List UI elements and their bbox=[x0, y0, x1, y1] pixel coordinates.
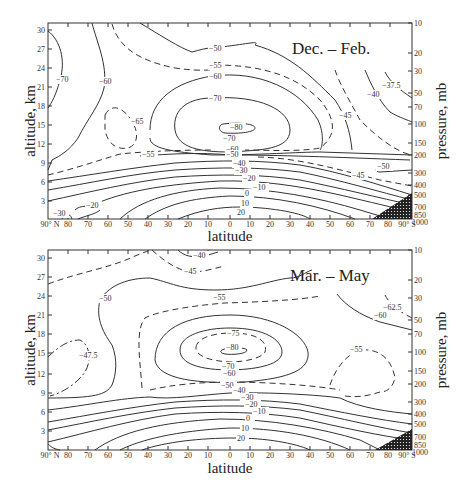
panel-mar-may: −40 −45 −50 −55 −47.5 −75 −80 −70 −60 −5… bbox=[22, 246, 449, 476]
svg-text:500: 500 bbox=[414, 420, 426, 429]
altitude-tick-labels: 30 27 24 21 18 15 12 9 6 3 bbox=[37, 254, 45, 436]
svg-text:15: 15 bbox=[37, 349, 45, 358]
svg-text:100: 100 bbox=[414, 120, 426, 129]
y-axis-title-left: altitude, km bbox=[22, 314, 38, 386]
svg-text:−47.5: −47.5 bbox=[79, 351, 98, 360]
svg-text:−70: −70 bbox=[56, 75, 69, 84]
svg-text:−55: −55 bbox=[209, 61, 222, 70]
svg-text:70: 70 bbox=[366, 451, 374, 460]
svg-text:20: 20 bbox=[184, 451, 192, 460]
x-axis-title: latitude bbox=[208, 460, 253, 476]
svg-text:50: 50 bbox=[326, 451, 334, 460]
svg-text:20: 20 bbox=[237, 208, 245, 217]
svg-text:−50: −50 bbox=[209, 44, 222, 53]
svg-text:24: 24 bbox=[37, 292, 45, 301]
svg-text:10: 10 bbox=[241, 424, 249, 433]
svg-text:10: 10 bbox=[246, 451, 254, 460]
pressure-tick-labels: 10 20 30 50 70 100 150 200 300 400 500 7… bbox=[412, 246, 428, 457]
svg-text:10: 10 bbox=[204, 451, 212, 460]
svg-text:−50: −50 bbox=[226, 150, 239, 159]
svg-text:−75: −75 bbox=[227, 329, 240, 338]
latitude-tick-labels: 90° N 80 70 60 50 40 30 20 10 0 10 20 30… bbox=[41, 451, 416, 460]
svg-text:−40: −40 bbox=[193, 251, 206, 260]
svg-text:20: 20 bbox=[266, 451, 274, 460]
svg-text:150: 150 bbox=[414, 367, 426, 376]
svg-text:−60: −60 bbox=[374, 311, 387, 320]
svg-text:−45: −45 bbox=[339, 111, 352, 120]
svg-text:15: 15 bbox=[37, 121, 45, 130]
svg-text:−80: −80 bbox=[226, 343, 239, 352]
svg-text:−60: −60 bbox=[99, 77, 112, 86]
svg-text:6: 6 bbox=[41, 178, 45, 187]
svg-text:80: 80 bbox=[64, 220, 72, 229]
svg-text:9: 9 bbox=[41, 159, 45, 168]
svg-text:60: 60 bbox=[104, 451, 112, 460]
svg-text:50: 50 bbox=[124, 220, 132, 229]
svg-text:−40: −40 bbox=[367, 90, 380, 99]
svg-text:70: 70 bbox=[366, 220, 374, 229]
y-axis-title-left: altitude, km bbox=[22, 85, 38, 157]
svg-text:24: 24 bbox=[37, 64, 45, 73]
svg-text:90° N: 90° N bbox=[41, 451, 60, 460]
svg-text:−50: −50 bbox=[221, 381, 234, 390]
svg-text:20: 20 bbox=[266, 220, 274, 229]
svg-text:50: 50 bbox=[414, 316, 422, 325]
svg-text:21: 21 bbox=[37, 83, 45, 92]
svg-text:30: 30 bbox=[37, 254, 45, 263]
svg-text:200: 200 bbox=[414, 380, 426, 389]
svg-text:20: 20 bbox=[414, 49, 422, 58]
y-axis-title-right: pressure, mb bbox=[433, 312, 449, 389]
svg-text:12: 12 bbox=[37, 140, 45, 149]
panel-title-mar-may: Mar. – May bbox=[290, 266, 370, 285]
svg-text:10: 10 bbox=[414, 246, 422, 255]
svg-text:−55: −55 bbox=[213, 293, 226, 302]
svg-text:20: 20 bbox=[414, 276, 422, 285]
svg-text:20: 20 bbox=[237, 434, 245, 443]
svg-text:80: 80 bbox=[384, 451, 392, 460]
svg-text:200: 200 bbox=[414, 151, 426, 160]
svg-text:40: 40 bbox=[306, 220, 314, 229]
svg-text:400: 400 bbox=[414, 181, 426, 190]
svg-text:3: 3 bbox=[41, 427, 45, 436]
svg-text:80: 80 bbox=[64, 451, 72, 460]
svg-text:9: 9 bbox=[41, 389, 45, 398]
svg-text:90° S: 90° S bbox=[398, 220, 416, 229]
top-ticks bbox=[68, 23, 390, 27]
antarctic-terrain bbox=[375, 429, 412, 450]
svg-text:18: 18 bbox=[37, 330, 45, 339]
svg-text:30: 30 bbox=[414, 67, 422, 76]
svg-text:300: 300 bbox=[414, 398, 426, 407]
svg-text:10: 10 bbox=[414, 19, 422, 28]
svg-text:−55: −55 bbox=[142, 150, 155, 159]
svg-text:−50: −50 bbox=[377, 162, 390, 171]
svg-text:−30: −30 bbox=[53, 209, 66, 218]
panel-dec-feb: −70 −60 −50 −55 −60 −70 −80 −70 −60 −65 … bbox=[22, 19, 449, 244]
bottom-ticks bbox=[68, 215, 390, 219]
svg-text:−80: −80 bbox=[230, 123, 243, 132]
svg-text:−45: −45 bbox=[184, 267, 197, 276]
svg-text:−55: −55 bbox=[350, 345, 363, 354]
svg-text:60: 60 bbox=[104, 220, 112, 229]
svg-text:0: 0 bbox=[228, 451, 232, 460]
svg-text:70: 70 bbox=[414, 103, 422, 112]
svg-text:3: 3 bbox=[41, 197, 45, 206]
chart-figure: −70 −60 −50 −55 −60 −70 −80 −70 −60 −65 … bbox=[0, 0, 459, 491]
svg-text:40: 40 bbox=[306, 451, 314, 460]
y-axis-title-right: pressure, mb bbox=[433, 83, 449, 160]
svg-text:100: 100 bbox=[414, 348, 426, 357]
x-axis-title: latitude bbox=[208, 228, 253, 244]
svg-text:27: 27 bbox=[37, 45, 45, 54]
svg-text:0: 0 bbox=[245, 189, 249, 198]
svg-text:50: 50 bbox=[124, 451, 132, 460]
svg-text:10: 10 bbox=[241, 199, 249, 208]
svg-text:−65: −65 bbox=[131, 117, 144, 126]
svg-text:−70: −70 bbox=[209, 94, 222, 103]
svg-text:0: 0 bbox=[246, 414, 250, 423]
svg-text:30: 30 bbox=[414, 294, 422, 303]
svg-text:30: 30 bbox=[164, 220, 172, 229]
svg-text:−50: −50 bbox=[99, 294, 112, 303]
svg-text:70: 70 bbox=[84, 220, 92, 229]
svg-text:−60: −60 bbox=[209, 72, 222, 81]
svg-text:−37.5: −37.5 bbox=[382, 81, 401, 90]
pressure-ticks bbox=[408, 250, 412, 444]
